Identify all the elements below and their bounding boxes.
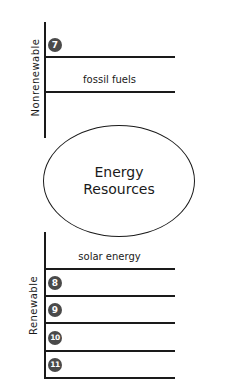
solar-energy-line: [44, 268, 175, 270]
fossil-fuels-text: fossil fuels: [44, 74, 175, 85]
renewable-label: Renewable: [28, 276, 39, 335]
solar-energy-text: solar energy: [44, 251, 175, 262]
question-badge-9: 9: [48, 303, 62, 317]
energy-resources-ellipse: Energy Resources: [43, 125, 195, 237]
question-badge-8: 8: [48, 276, 62, 290]
answer-line-10[interactable]: [44, 350, 175, 352]
fossil-fuels-line: [44, 91, 175, 93]
answer-line-7[interactable]: [44, 56, 175, 58]
question-badge-7: 7: [48, 38, 62, 52]
answer-line-11[interactable]: [44, 377, 175, 379]
question-badge-11: 11: [48, 358, 62, 372]
center-title-line1: Energy: [94, 164, 143, 181]
nonrenewable-label: Nonrenewable: [30, 38, 41, 116]
answer-line-8[interactable]: [44, 295, 175, 297]
question-badge-10: 10: [48, 331, 62, 345]
center-title-line2: Resources: [83, 181, 155, 198]
answer-line-9[interactable]: [44, 322, 175, 324]
